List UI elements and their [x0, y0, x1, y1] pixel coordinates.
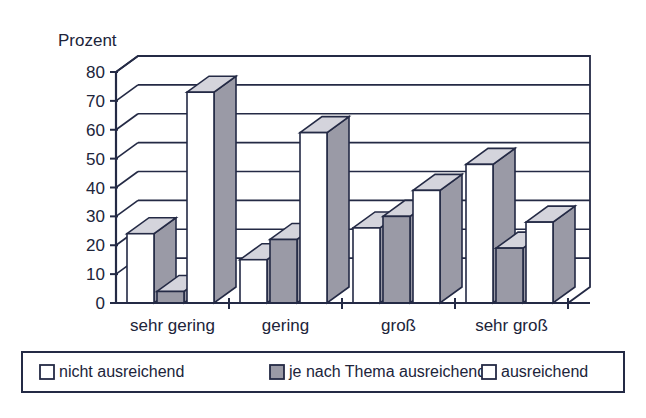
chart-figure: Prozent 01020304050607080 sehr geringger…	[0, 0, 646, 418]
y-tick-label: 20	[86, 236, 105, 255]
bar-chart-3d: Prozent 01020304050607080 sehr geringger…	[0, 0, 646, 418]
y-tick-label: 60	[86, 121, 105, 140]
bar-front-face	[466, 164, 493, 303]
legend-label: ausreichend	[501, 363, 588, 380]
bar-front-face	[187, 92, 214, 303]
y-tick-label: 70	[86, 92, 105, 111]
y-tick-label: 0	[96, 294, 105, 313]
x-category-label: sehr groß	[475, 316, 548, 335]
bar-side-face	[327, 117, 349, 303]
legend-swatch	[482, 365, 496, 379]
bar-side-face	[214, 76, 236, 303]
y-tick-label: 10	[86, 265, 105, 284]
bar-front-face	[496, 248, 523, 303]
bar-sehr-groß-3	[526, 206, 575, 303]
x-category-label: sehr gering	[130, 316, 215, 335]
bar-front-face	[353, 228, 380, 303]
bar-front-face	[127, 234, 154, 303]
bar-front-face	[270, 239, 297, 303]
x-category-label: groß	[381, 316, 416, 335]
bar-front-face	[300, 133, 327, 303]
legend-swatch	[270, 365, 284, 379]
bar-front-face	[383, 216, 410, 303]
bar-sehr-gering-3	[187, 76, 236, 303]
bar-front-face	[413, 190, 440, 303]
legend-label: nicht ausreichend	[59, 363, 184, 380]
bar-gering-3	[300, 117, 349, 303]
x-category-label: gering	[262, 316, 309, 335]
legend-label: je nach Thema ausreichend	[288, 363, 486, 380]
bar-groß-3	[413, 174, 462, 303]
legend-item-1[interactable]: nicht ausreichend	[40, 363, 184, 380]
legend-swatch	[40, 365, 54, 379]
y-axis-title: Prozent	[58, 31, 117, 50]
y-tick-label: 80	[86, 63, 105, 82]
y-tick-label: 40	[86, 179, 105, 198]
bar-front-face	[526, 222, 553, 303]
bar-front-face	[157, 291, 184, 303]
bar-side-face	[440, 174, 462, 303]
y-tick-label: 30	[86, 207, 105, 226]
bar-front-face	[240, 260, 267, 303]
y-tick-label: 50	[86, 150, 105, 169]
legend-item-2[interactable]: je nach Thema ausreichend	[270, 363, 486, 380]
chart-legend: nicht ausreichendje nach Thema ausreiche…	[22, 352, 624, 392]
